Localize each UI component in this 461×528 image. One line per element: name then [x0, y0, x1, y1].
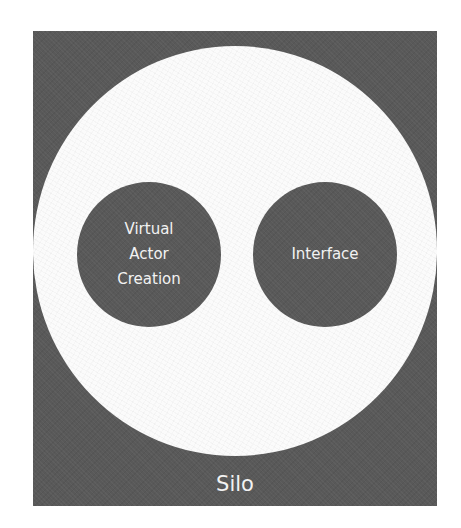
silo-label: Silo	[33, 470, 437, 498]
node-label-line: Creation	[117, 267, 180, 292]
node-label-line: Actor	[117, 242, 180, 267]
node-virtual-actor-creation: Virtual Actor Creation	[77, 182, 221, 327]
node-interface: Interface	[253, 182, 397, 327]
node-label: Virtual Actor Creation	[117, 217, 180, 292]
node-label-line: Virtual	[117, 217, 180, 242]
silo-container: Virtual Actor Creation Interface Silo	[33, 31, 437, 506]
node-label: Interface	[291, 242, 358, 267]
node-label-line: Interface	[291, 242, 358, 267]
